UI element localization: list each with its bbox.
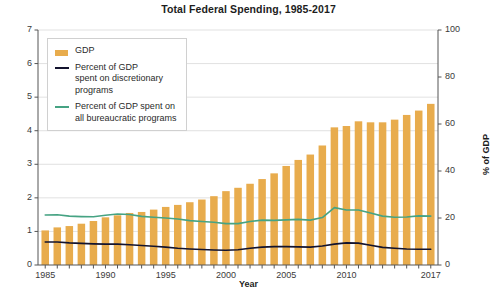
bar (367, 122, 375, 265)
legend-bar-swatch (55, 50, 68, 56)
x-tick-1995: 1995 (146, 270, 186, 280)
bar (210, 196, 218, 265)
x-tick-2017: 2017 (411, 270, 451, 280)
legend-label: Percent of GDP spent on all bureaucratic… (75, 101, 177, 124)
chart-legend: GDPPercent of GDP spent on discretionary… (47, 38, 187, 131)
bar (186, 202, 194, 265)
chart-container: Total Federal Spending, 1985-2017 $ Tril… (0, 0, 497, 293)
bar (307, 155, 315, 265)
bar (234, 188, 242, 265)
bar (246, 184, 254, 265)
y-tick-right-0: 0 (445, 259, 475, 269)
bar (258, 179, 266, 265)
legend-item-2: Percent of GDP spent on all bureaucratic… (55, 101, 177, 124)
bar (391, 120, 399, 265)
legend-label: Percent of GDP spent on discretionary pr… (75, 62, 163, 97)
bar (138, 212, 146, 265)
bar (66, 226, 74, 265)
y-tick-right-100: 100 (445, 24, 475, 34)
bar (427, 104, 435, 265)
y-tick-right-60: 60 (445, 118, 475, 128)
legend-swatch-icon (55, 101, 75, 108)
y-tick-left-5: 5 (6, 91, 32, 101)
bar (415, 111, 423, 265)
bar (102, 217, 110, 265)
legend-swatch-icon (55, 45, 75, 56)
bar (270, 173, 278, 265)
chart-title: Total Federal Spending, 1985-2017 (0, 3, 497, 15)
y-tick-left-1: 1 (6, 225, 32, 235)
legend-label: GDP (75, 45, 95, 57)
y-tick-right-40: 40 (445, 165, 475, 175)
bar (78, 224, 86, 265)
bar (222, 191, 230, 265)
y-tick-left-4: 4 (6, 125, 32, 135)
bar (41, 230, 49, 265)
bar (54, 227, 62, 265)
x-tick-1985: 1985 (25, 270, 65, 280)
bar (403, 115, 411, 265)
y-tick-right-80: 80 (445, 71, 475, 81)
legend-line-swatch (55, 106, 69, 108)
legend-item-1: Percent of GDP spent on discretionary pr… (55, 62, 177, 97)
y-axis-right-label: % of GDP (481, 134, 491, 175)
bar (126, 213, 134, 265)
bar (343, 126, 351, 265)
x-axis-label: Year (0, 279, 497, 289)
legend-item-0: GDP (55, 45, 177, 57)
y-tick-left-0: 0 (6, 259, 32, 269)
bar (379, 122, 387, 265)
x-tick-2000: 2000 (206, 270, 246, 280)
bar (319, 145, 327, 265)
bar (282, 166, 290, 265)
y-tick-left-7: 7 (6, 24, 32, 34)
bar (114, 215, 122, 265)
x-tick-2010: 2010 (326, 270, 366, 280)
x-tick-1990: 1990 (85, 270, 125, 280)
bar (294, 160, 302, 265)
bar (198, 200, 206, 265)
y-tick-left-6: 6 (6, 58, 32, 68)
legend-swatch-icon (55, 62, 75, 69)
y-tick-right-20: 20 (445, 212, 475, 222)
y-tick-left-2: 2 (6, 192, 32, 202)
legend-line-swatch (55, 67, 69, 69)
bar (162, 207, 170, 265)
x-tick-2005: 2005 (266, 270, 306, 280)
y-tick-left-3: 3 (6, 158, 32, 168)
bar (174, 205, 182, 265)
